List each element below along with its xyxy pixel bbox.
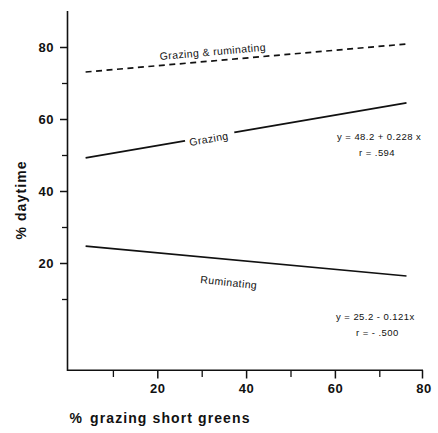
chart-figure: 80 60 40 20 20 40 60 80 %daytime — [0, 0, 438, 433]
x-tick-label-80: 80 — [416, 381, 431, 396]
svg-text:%grazing short greens: %grazing short greens — [69, 410, 250, 426]
x-tick-label-20: 20 — [150, 381, 165, 396]
svg-text:%daytime: %daytime — [13, 160, 29, 239]
ruminating-r-value: r = - .500 — [356, 327, 399, 338]
grazing-r-value: r = .594 — [359, 147, 395, 158]
y-axis-title-text: daytime — [13, 160, 29, 221]
x-tick-label-40: 40 — [239, 381, 254, 396]
grazing-equation-line: y = 48.2 + 0.228 x — [337, 131, 421, 142]
y-axis-title: %daytime — [13, 160, 29, 239]
y-tick-label-60: 60 — [39, 112, 54, 127]
x-tick-label-60: 60 — [328, 381, 343, 396]
x-axis-title-percent: % — [69, 410, 83, 426]
y-tick-label-20: 20 — [39, 256, 54, 271]
regression-plot: 80 60 40 20 20 40 60 80 %daytime — [0, 0, 438, 433]
x-axis-title: %grazing short greens — [69, 410, 250, 426]
plot-background — [0, 0, 438, 433]
y-tick-label-80: 80 — [39, 40, 54, 55]
y-axis-title-percent: % — [13, 226, 29, 240]
y-tick-label-40: 40 — [39, 184, 54, 199]
x-axis-title-text: grazing short greens — [90, 410, 250, 426]
ruminating-equation-line: y = 25.2 - 0.121x — [336, 311, 415, 322]
